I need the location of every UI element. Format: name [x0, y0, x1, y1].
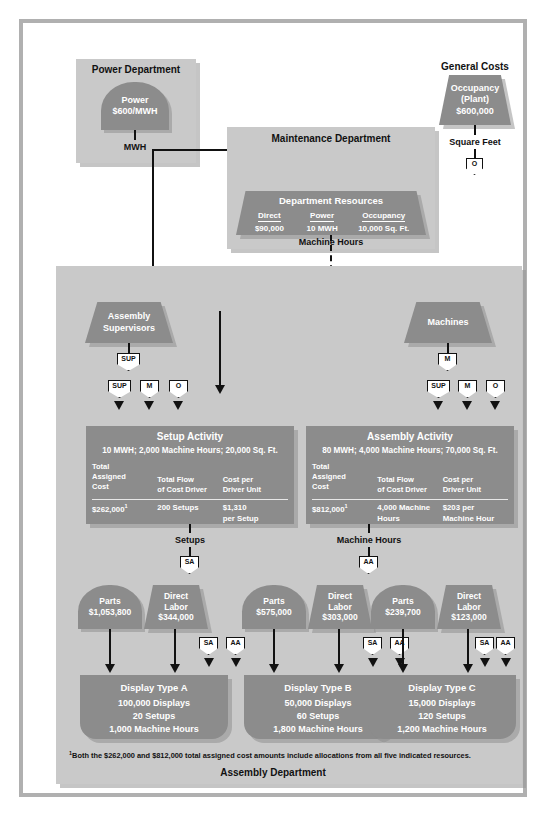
occupancy-amount: $600,000 — [456, 106, 494, 117]
occupancy-resource-shape: Occupancy (Plant) $600,000 — [439, 75, 511, 125]
assembly-col-header-0-l1: Total — [312, 462, 377, 472]
setup-col-header-0: Total Assigned Cost — [92, 462, 157, 495]
power-resource-rate: $600/MWH — [112, 106, 157, 117]
assembly-col-header-1: Total Flow of Cost Driver — [377, 462, 442, 495]
parts-arrow-1 — [269, 664, 279, 673]
diagram-frame: Power Department Power $600/MWH MWH Gene… — [19, 19, 527, 797]
assembly-arrow-m — [462, 401, 472, 410]
dr-col-header-2: Occupancy — [362, 211, 405, 222]
assembly-col-header-2: Cost per Driver Unit — [443, 462, 508, 495]
parts-line-1 — [273, 629, 275, 667]
setup-value-2-l1: $1,310 — [223, 503, 288, 513]
assembly-activity-subtitle: 80 MWH; 4,000 Machine Hours; 70,000 Sq. … — [306, 442, 514, 455]
parts-shape-0: Parts $1,053,800 — [78, 585, 142, 629]
parts-line-2 — [402, 629, 404, 667]
setup-value-0-text: $262,000 — [92, 505, 125, 514]
assembly-supervisors-name2: Supervisors — [103, 323, 155, 334]
power-department-title: Power Department — [76, 64, 196, 75]
department-resources-shape: Department Resources Direct $90,000 Powe… — [236, 191, 426, 235]
parts-shape-1: Parts $575,000 — [242, 585, 306, 629]
assembly-arrow-sup — [433, 401, 443, 410]
assembly-col-header-0: Total Assigned Cost — [312, 462, 377, 495]
occupancy-stem — [474, 125, 476, 135]
assembly-value-2: $203 per Machine Hour — [443, 503, 508, 523]
product-arrow-sa-1 — [368, 658, 378, 667]
machinehours-driver-label: Machine Hours — [323, 535, 415, 545]
setup-value-2-l2: per Setup — [223, 514, 288, 524]
square-feet-label: Square Feet — [435, 137, 515, 147]
display-c-line-2: 1,200 Machine Hours — [368, 723, 516, 736]
assembly-col-header-1-l1: Total Flow — [377, 475, 442, 485]
product-arrow-sa-2 — [480, 658, 490, 667]
assembly-col-header-2-l1: Cost per — [443, 475, 508, 485]
labor-arrow-0 — [170, 664, 180, 673]
labor-amount-0: $344,000 — [158, 612, 193, 623]
setup-col-header-0-l3: Cost — [92, 482, 157, 492]
setup-value-0-marker: 1 — [125, 503, 128, 509]
setup-col-header-1: Total Flow of Cost Driver — [157, 462, 222, 495]
setup-activity-title: Setup Activity — [86, 426, 294, 442]
labor-name-2: Direct — [457, 591, 481, 602]
mwh-arrow-setup-line — [219, 311, 221, 388]
setup-col-header-2-l1: Cost per — [223, 475, 288, 485]
supervisors-stem — [128, 343, 130, 353]
product-arrow-sa-0 — [204, 658, 214, 667]
dr-col-header-0: Direct — [258, 211, 281, 222]
parts-amount-2: $239,700 — [385, 607, 420, 618]
labor-name-0: Direct — [164, 591, 188, 602]
parts-arrow-0 — [105, 664, 115, 673]
machines-stem — [447, 343, 449, 353]
setup-col-header-0-l2: Assigned — [92, 472, 157, 482]
general-costs-title: General Costs — [420, 61, 530, 72]
setup-value-1: 200 Setups — [157, 503, 222, 523]
power-stem — [134, 130, 136, 140]
parts-line-0 — [109, 629, 111, 667]
assembly-value-1-l2: Hours — [377, 514, 442, 524]
machinehours-stem-top — [368, 524, 370, 533]
assembly-activity-box: Assembly Activity 80 MWH; 4,000 Machine … — [306, 426, 514, 524]
setups-stem-bottom — [189, 547, 191, 556]
occupancy-driver-badge: O — [466, 158, 483, 175]
product-arrow-aa-2 — [501, 658, 511, 667]
assembly-value-0-text: $812,000 — [312, 505, 345, 514]
setup-col-header-1-l1: Total Flow — [157, 475, 222, 485]
setups-stem-top — [189, 524, 191, 533]
labor-name2-0: Labor — [164, 602, 188, 613]
assembly-supervisors-name: Assembly — [108, 311, 151, 322]
labor-name-1: Direct — [328, 591, 352, 602]
labor-amount-2: $123,000 — [451, 612, 486, 623]
assembly-value-2-l1: $203 per — [443, 503, 508, 513]
occupancy-name: Occupancy — [451, 83, 500, 94]
power-resource-shape: Power $600/MWH — [101, 82, 169, 130]
parts-name-0: Parts — [99, 596, 120, 607]
setup-arrow-m — [144, 401, 154, 410]
assembly-activity-title: Assembly Activity — [306, 426, 514, 442]
square-feet-stem — [474, 149, 476, 158]
display-a-line-2: 1,000 Machine Hours — [80, 723, 228, 736]
labor-name2-1: Labor — [328, 602, 352, 613]
parts-name-1: Parts — [263, 596, 284, 607]
display-a-line-1: 20 Setups — [80, 710, 228, 723]
setup-col-header-0-l1: Total — [92, 462, 157, 472]
parts-name-2: Parts — [392, 596, 413, 607]
assembly-value-2-l2: Machine Hour — [443, 514, 508, 524]
assembly-value-0: $812,0001 — [312, 503, 377, 523]
assembly-value-1: 4,000 Machine Hours — [377, 503, 442, 523]
dr-col-header-1: Power — [310, 211, 334, 222]
dr-col-value-1: 10 MWH — [297, 222, 348, 234]
labor-amount-1: $303,000 — [322, 612, 357, 623]
machinehours-stem-bottom — [368, 547, 370, 556]
display-type-a-box: Display Type A 100,000 Displays 20 Setup… — [80, 675, 228, 739]
setup-value-0: $262,0001 — [92, 503, 157, 523]
assembly-arrow-o — [490, 401, 500, 410]
display-type-c-box: Display Type C 15,000 Displays 120 Setup… — [368, 675, 516, 739]
display-a-line-0: 100,000 Displays — [80, 693, 228, 710]
display-c-line-0: 15,000 Displays — [368, 693, 516, 710]
setup-value-1-l1: 200 Setups — [157, 503, 222, 513]
setup-col-header-1-l2: of Cost Driver — [157, 485, 222, 495]
display-a-title: Display Type A — [80, 675, 228, 693]
setup-arrow-sup — [114, 401, 124, 410]
assembly-col-header-0-l2: Assigned — [312, 472, 377, 482]
labor-line-1 — [338, 629, 340, 667]
labor-name2-2: Labor — [457, 602, 481, 613]
